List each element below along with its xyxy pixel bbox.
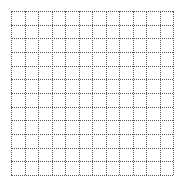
grid-horizontal-line	[11, 25, 173, 26]
grid-vertical-line	[173, 11, 174, 175]
grid-horizontal-line	[11, 52, 173, 53]
canvas	[0, 0, 181, 186]
grid-horizontal-line	[11, 79, 173, 80]
grid-horizontal-line	[11, 148, 173, 149]
grid-horizontal-line	[11, 175, 173, 176]
dotted-grid	[11, 11, 173, 175]
grid-horizontal-line	[11, 66, 173, 67]
grid-horizontal-line	[11, 134, 173, 135]
grid-horizontal-line	[11, 38, 173, 39]
grid-horizontal-line	[11, 107, 173, 108]
grid-horizontal-line	[11, 93, 173, 94]
grid-horizontal-line	[11, 11, 173, 12]
grid-horizontal-line	[11, 161, 173, 162]
grid-horizontal-line	[11, 120, 173, 121]
